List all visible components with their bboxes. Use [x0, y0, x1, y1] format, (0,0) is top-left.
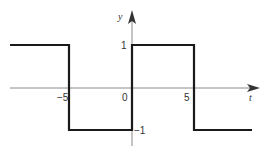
x-axis-label: t — [249, 92, 252, 103]
y-axis-label: y — [117, 11, 123, 22]
x-tick-5: 5 — [184, 92, 190, 103]
x-axis — [10, 84, 260, 92]
y-tick-neg1: −1 — [134, 125, 146, 136]
x-tick-0: 0 — [122, 92, 128, 103]
square-wave-plot: −5 0 5 1 −1 y t — [0, 0, 270, 150]
x-tick-neg5: −5 — [57, 92, 69, 103]
y-tick-pos1: 1 — [121, 40, 127, 51]
